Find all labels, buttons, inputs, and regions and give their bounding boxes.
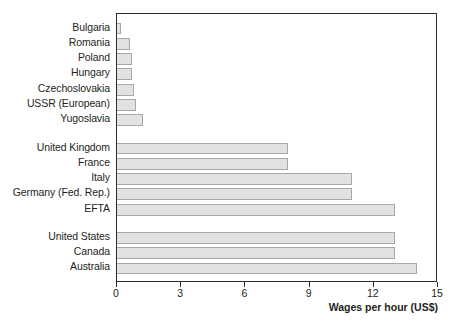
bar (117, 204, 395, 216)
bar (117, 99, 136, 111)
category-label: France (0, 157, 110, 168)
x-tick-label: 12 (367, 287, 379, 299)
category-label: Germany (Fed. Rep.) (0, 187, 110, 198)
bar (117, 173, 352, 185)
x-axis-tick-labels: 03691215 (0, 287, 458, 301)
x-tick-label: 9 (306, 287, 312, 299)
category-label: EFTA (0, 203, 110, 214)
category-label: Czechoslovakia (0, 83, 110, 94)
category-label: Yugoslavia (0, 113, 110, 124)
x-tick-label: 15 (431, 287, 443, 299)
bar (117, 158, 288, 170)
bar (117, 38, 130, 50)
bar (117, 53, 132, 65)
bar (117, 84, 134, 96)
category-label: Australia (0, 261, 110, 272)
x-axis-title: Wages per hour (US$) (329, 301, 438, 313)
x-tick-label: 3 (177, 287, 183, 299)
bar (117, 263, 417, 275)
category-label: USSR (European) (0, 98, 110, 109)
category-label: Canada (0, 246, 110, 257)
category-label: Bulgaria (0, 22, 110, 33)
bar (117, 68, 132, 80)
category-label: Poland (0, 52, 110, 63)
bar (117, 114, 143, 126)
category-label: United Kingdom (0, 142, 110, 153)
category-label: Italy (0, 172, 110, 183)
x-tick-label: 6 (241, 287, 247, 299)
bar (117, 143, 288, 155)
bar-chart: BulgariaRomaniaPolandHungaryCzechoslovak… (0, 0, 458, 324)
category-label: United States (0, 231, 110, 242)
x-tick-label: 0 (113, 287, 119, 299)
bar (117, 232, 395, 244)
bar (117, 247, 395, 259)
category-label: Hungary (0, 67, 110, 78)
category-axis-labels: BulgariaRomaniaPolandHungaryCzechoslovak… (0, 13, 110, 282)
bar (117, 188, 352, 200)
category-label: Romania (0, 37, 110, 48)
bar (117, 23, 121, 35)
plot-frame (116, 13, 437, 282)
plot-area (117, 14, 436, 281)
